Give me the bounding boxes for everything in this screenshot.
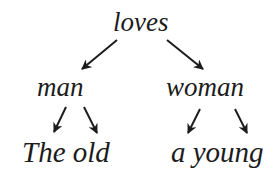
arrow-loves-to-man xyxy=(82,40,117,69)
node-man: man xyxy=(37,74,84,101)
arrow-man-to-old xyxy=(84,107,97,133)
node-root: loves xyxy=(113,9,168,36)
arrow-woman-to-young xyxy=(235,109,247,133)
arrow-loves-to-woman xyxy=(167,40,203,69)
node-the-old: The old xyxy=(22,138,110,167)
node-woman: woman xyxy=(166,74,244,101)
node-a-young: a young xyxy=(171,138,264,167)
dependency-tree-diagram: loves man woman The old a young xyxy=(0,0,277,175)
arrow-man-to-the xyxy=(54,107,66,132)
arrow-woman-to-a xyxy=(188,109,200,133)
